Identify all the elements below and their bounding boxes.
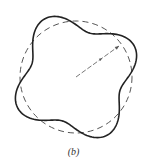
figure-caption: (b) [0, 146, 147, 157]
mode-shape-diagram [0, 0, 147, 166]
radius-line [76, 46, 119, 77]
radius-arrowhead-icon [115, 46, 119, 50]
